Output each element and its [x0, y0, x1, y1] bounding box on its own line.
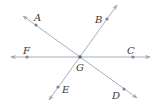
label-a: A [33, 12, 41, 23]
point-e [56, 85, 59, 88]
points-layer [25, 17, 134, 90]
label-g: G [76, 62, 84, 73]
point-a [34, 23, 37, 26]
point-g [78, 55, 82, 59]
point-b [105, 17, 108, 20]
label-e: E [61, 84, 70, 95]
point-d [122, 87, 125, 90]
geometry-diagram: ADBEFCG [0, 0, 156, 109]
label-c: C [127, 45, 135, 56]
label-b: B [94, 14, 102, 25]
label-f: F [22, 45, 31, 56]
label-d: D [111, 90, 120, 101]
